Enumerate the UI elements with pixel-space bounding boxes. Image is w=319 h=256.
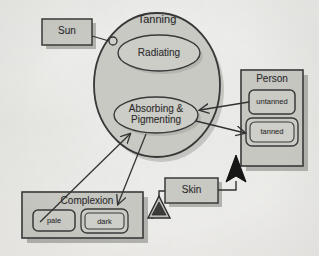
generalization-filled-triangle (226, 155, 246, 182)
ball-socket-icon (109, 37, 117, 45)
pale-to-absorbing-line (40, 134, 130, 222)
sun-to-tanning-line (92, 36, 109, 41)
diagram-canvas: Sun Tanning Radiating Absorbing & Pigmen… (0, 0, 319, 256)
absorbing-to-tanned-line (196, 121, 245, 133)
untanned-to-absorbing-line (200, 102, 249, 110)
skin-to-person-line (218, 181, 236, 190)
connectors-layer (0, 0, 319, 256)
absorbing-to-dark-line (118, 134, 146, 204)
